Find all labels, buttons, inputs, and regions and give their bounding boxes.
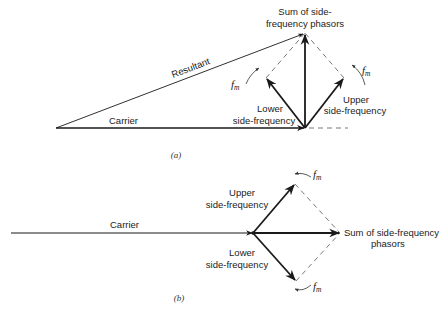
resultant-label-a: Resultant bbox=[170, 55, 212, 80]
sum-label-a-line2: frequency phasors bbox=[266, 18, 344, 29]
upper-label-a-line2: side-frequency bbox=[324, 105, 387, 116]
sum-label-b-line2: phasors bbox=[371, 238, 405, 249]
rotation-arrow-upper-b bbox=[295, 173, 311, 177]
carrier-label-b: Carrier bbox=[110, 219, 139, 230]
upper-label-a-line1: Upper bbox=[343, 94, 369, 105]
fm-label-lower-a: fm bbox=[231, 78, 240, 92]
rotation-arrow-lower-b bbox=[295, 285, 311, 290]
lower-label-b-line2: side-frequency bbox=[206, 259, 269, 270]
carrier-label-a: Carrier bbox=[109, 115, 138, 126]
lower-label-a-line1: Lower bbox=[257, 103, 283, 114]
sum-label-a-line1: Sum of side- bbox=[278, 6, 331, 17]
rotation-arrow-lower-a bbox=[246, 68, 259, 84]
caption-b: (b) bbox=[174, 293, 185, 303]
origin-dot-b bbox=[251, 231, 255, 235]
lower-sideband-phasor-b bbox=[253, 233, 295, 280]
fm-label-lower-b: fm bbox=[313, 280, 322, 294]
upper-label-b-line1: Upper bbox=[229, 187, 255, 198]
diagram-b: Carrier Upper side-frequency Lower side-… bbox=[11, 168, 439, 303]
lower-label-a-line2: side-frequency bbox=[233, 115, 296, 126]
diagram-a: Sum of side- frequency phasors Resultant… bbox=[56, 6, 386, 160]
upper-label-b-line2: side-frequency bbox=[206, 199, 269, 210]
caption-a: (a) bbox=[171, 150, 182, 160]
fm-label-upper-b: fm bbox=[313, 168, 322, 182]
fm-label-upper-a: fm bbox=[362, 64, 371, 78]
phasor-diagram: Sum of side- frequency phasors Resultant… bbox=[0, 0, 447, 313]
upper-sideband-phasor-a bbox=[305, 79, 343, 128]
sum-label-b-line1: Sum of side-frequency bbox=[344, 227, 439, 238]
lower-label-b-line1: Lower bbox=[229, 247, 255, 258]
